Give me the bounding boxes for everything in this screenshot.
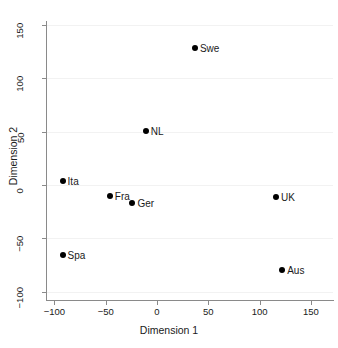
y-axis-title: Dimension 2 [7, 81, 19, 231]
x-tick-mark [208, 301, 209, 305]
x-tick-mark [106, 301, 107, 305]
data-point-label: Fra [115, 192, 130, 202]
data-point-label: UK [281, 193, 295, 203]
data-point-marker[interactable] [192, 45, 198, 51]
data-point-marker[interactable] [60, 252, 66, 258]
gridline-horizontal [46, 238, 333, 239]
data-point-marker[interactable] [129, 200, 135, 206]
x-tick-label: 0 [154, 307, 159, 317]
y-tick-label: −100 [0, 287, 40, 297]
y-tick-label: 150 [0, 20, 40, 30]
data-point-marker[interactable] [107, 193, 113, 199]
x-tick-label: 50 [203, 307, 214, 317]
y-tick-label: 100 [0, 73, 40, 83]
data-point-label: NL [151, 127, 164, 137]
x-tick-mark [157, 301, 158, 305]
gridline-horizontal [46, 132, 333, 133]
data-point-label: Ita [68, 177, 79, 187]
gridline-horizontal [46, 292, 333, 293]
x-tick-mark [54, 301, 55, 305]
gridline-horizontal [46, 185, 333, 186]
y-tick-label: −50 [0, 233, 40, 243]
data-point-marker[interactable] [279, 267, 285, 273]
gridline-horizontal [46, 25, 333, 26]
y-axis-line [46, 21, 47, 300]
x-tick-label: 100 [252, 307, 268, 317]
gridline-horizontal [46, 78, 333, 79]
data-point-label: Spa [68, 251, 86, 261]
y-tick-mark [42, 132, 46, 133]
x-tick-label: 150 [303, 307, 319, 317]
y-tick-mark [42, 238, 46, 239]
y-tick-mark [42, 185, 46, 186]
y-tick-mark [42, 292, 46, 293]
data-point-marker[interactable] [273, 194, 279, 200]
data-point-marker[interactable] [60, 178, 66, 184]
data-point-label: Ger [137, 199, 154, 209]
x-axis-line [46, 300, 334, 301]
y-tick-mark [42, 78, 46, 79]
x-tick-label: −100 [44, 307, 65, 317]
data-point-label: Swe [200, 44, 219, 54]
data-point-marker[interactable] [143, 128, 149, 134]
scatter-plot-figure: SweNLItaFraGerUKSpaAus −100−50050100150 … [0, 0, 338, 348]
x-tick-label: −50 [98, 307, 114, 317]
y-tick-mark [42, 25, 46, 26]
y-tick-label: 0 [0, 180, 40, 190]
x-tick-mark [311, 301, 312, 305]
data-point-label: Aus [287, 266, 304, 276]
x-tick-mark [260, 301, 261, 305]
x-axis-title: Dimension 1 [0, 324, 338, 336]
plot-area: SweNLItaFraGerUKSpaAus [46, 18, 333, 300]
y-tick-label: 50 [0, 127, 40, 137]
